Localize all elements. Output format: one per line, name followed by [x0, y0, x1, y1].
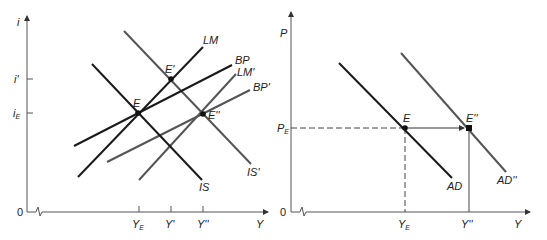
left-x-axis [27, 207, 268, 216]
right-y-axis-label: P [280, 27, 288, 39]
left-x-axis-label: Y [256, 218, 264, 230]
curve-AD-dprime [401, 53, 506, 172]
tick-label-Y-dprime-right: Y'' [461, 218, 473, 230]
curve-label-AD: AD [446, 180, 462, 192]
right-x-axis-label: Y [514, 218, 522, 230]
right-origin-label: 0 [280, 206, 286, 218]
point-E [135, 110, 141, 116]
curve-label-LM: LM [203, 34, 219, 46]
tick-label-PE: PE [277, 122, 289, 135]
point-E-prime [168, 76, 174, 82]
curve-AD [339, 63, 452, 178]
tick-label-iE: iE [13, 107, 20, 120]
point-E-dprime-right [466, 125, 472, 131]
right-panel: P Y 0 PE YE Y'' AD AD'' E E'' [277, 12, 530, 231]
tick-label-Y-dprime: Y'' [197, 218, 209, 230]
tick-label-i-prime: i' [14, 73, 19, 85]
point-label-E-right: E [403, 112, 411, 124]
curve-label-BP-prime: BP' [253, 81, 271, 93]
curve-label-LM-prime: LM' [237, 66, 255, 78]
point-E-dprime [200, 111, 206, 117]
diagram-canvas: i Y 0 i' iE YE Y' Y'' LM BP LM' BP' IS' … [0, 0, 547, 240]
curve-label-IS-prime: IS' [247, 166, 260, 178]
tick-label-YE: YE [132, 218, 144, 231]
left-panel: i Y 0 i' iE YE Y' Y'' LM BP LM' BP' IS' … [13, 16, 271, 231]
curve-label-BP: BP [235, 54, 250, 66]
curve-label-AD-dprime: AD'' [496, 174, 517, 186]
point-E-right [402, 125, 408, 131]
tick-label-Y-prime: Y' [165, 218, 175, 230]
point-label-E-dprime: E'' [208, 109, 220, 121]
point-label-E-prime: E' [165, 63, 175, 75]
right-x-axis [291, 207, 530, 216]
curve-label-IS: IS [199, 181, 210, 193]
point-label-E: E [133, 97, 141, 109]
point-label-E-dprime-right: E'' [466, 112, 478, 124]
curve-BP-prime [107, 90, 250, 162]
left-origin-label: 0 [17, 206, 23, 218]
tick-label-YE-right: YE [398, 218, 410, 231]
left-y-axis-label: i [17, 16, 20, 28]
